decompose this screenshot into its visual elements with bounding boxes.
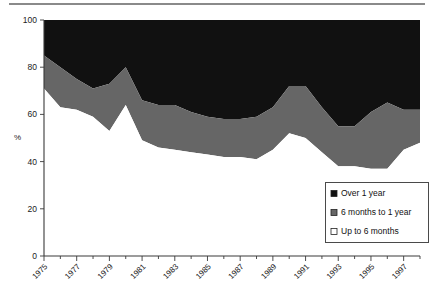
- y-axis-ticks: 020406080100: [23, 15, 44, 261]
- x-tick-label: 1995: [357, 262, 376, 281]
- x-axis-labels: 1975197719791981198319851987198919911993…: [30, 262, 409, 281]
- x-tick-label: 1991: [292, 262, 311, 281]
- x-tick-label: 1975: [30, 262, 49, 281]
- y-tick-label: 100: [23, 15, 37, 25]
- x-tick-label: 1987: [227, 262, 246, 281]
- legend-label: Over 1 year: [341, 188, 386, 198]
- y-tick-label: 0: [32, 251, 37, 261]
- legend-swatch: [331, 210, 337, 216]
- x-tick-label: 1979: [96, 262, 115, 281]
- y-tick-label: 60: [28, 109, 38, 119]
- x-tick-label: 1983: [161, 262, 180, 281]
- legend-label: Up to 6 months: [341, 226, 399, 236]
- x-axis-ticks: [44, 256, 420, 261]
- x-tick-label: 1989: [259, 262, 278, 281]
- y-axis-title: %: [14, 133, 21, 142]
- y-tick-label: 80: [28, 62, 38, 72]
- chart-page: 020406080100 197519771979198119831985198…: [0, 0, 434, 294]
- stacked-area-chart: 020406080100 197519771979198119831985198…: [0, 0, 434, 294]
- chart-legend: Over 1 year6 months to 1 yearUp to 6 mon…: [326, 183, 429, 243]
- chart-canvas: 020406080100 197519771979198119831985198…: [0, 0, 434, 294]
- legend-swatch: [331, 229, 337, 235]
- legend-label: 6 months to 1 year: [341, 207, 412, 217]
- x-tick-label: 1985: [194, 262, 213, 281]
- x-tick-label: 1981: [129, 262, 148, 281]
- x-tick-label: 1997: [390, 262, 409, 281]
- y-tick-label: 20: [28, 204, 38, 214]
- legend-swatch: [331, 191, 337, 197]
- x-tick-label: 1977: [63, 262, 82, 281]
- y-tick-label: 40: [28, 157, 38, 167]
- x-tick-label: 1993: [325, 262, 344, 281]
